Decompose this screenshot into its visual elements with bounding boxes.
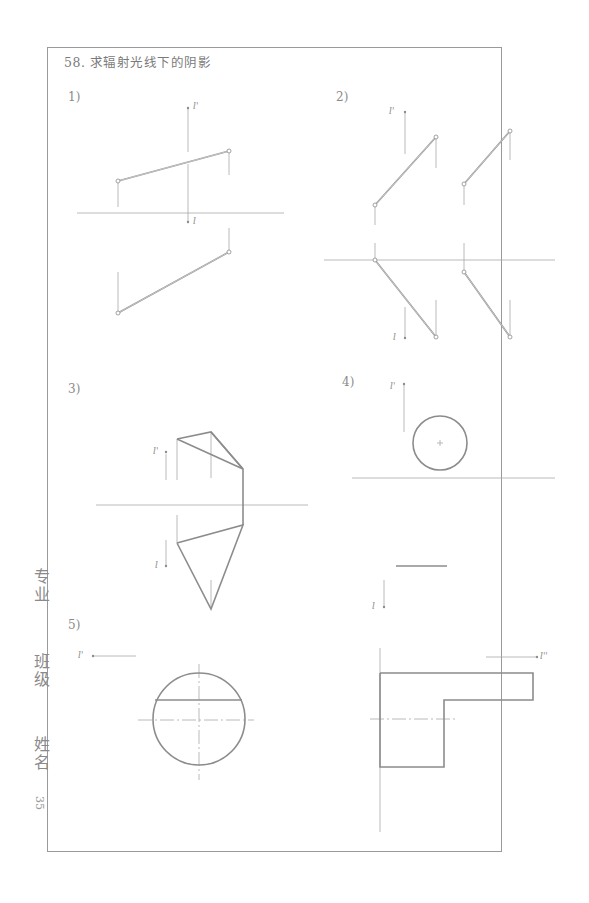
technical-drawings [0,0,589,903]
p4-light-top-label: l' [390,381,395,391]
p2-light-bottom-label: l [393,332,396,342]
p2-light-top-label: l' [389,106,394,116]
problem-5-left-drawing [93,656,254,780]
p5-light-right-label: l'' [540,651,548,661]
problem-4-drawing [352,384,555,606]
problem-5-right-drawing [370,648,536,832]
p3-light-bottom-label: l [155,560,158,570]
p1-light-top-label: l' [193,101,198,111]
p3-light-top-label: l' [153,446,158,456]
problem-3-drawing [96,432,308,607]
p5-light-left-label: l' [78,650,83,660]
problem-2-drawing [324,112,555,338]
p4-light-bottom-label: l [372,601,375,611]
p1-light-bottom-label: l [193,216,196,226]
problem-1-drawing [77,108,284,313]
